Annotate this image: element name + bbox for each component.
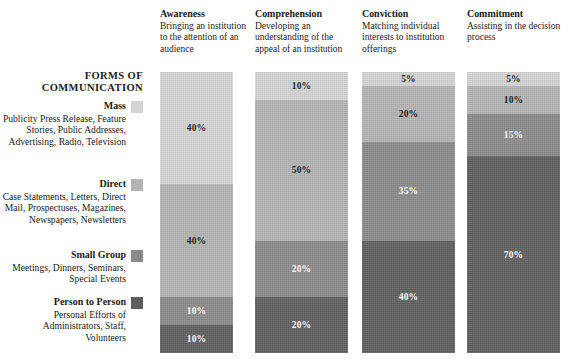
bar-segment-awareness-small-group[interactable]: 10%	[160, 297, 233, 325]
legend-heading: FORMS OF COMMUNICATION	[0, 70, 143, 95]
bar-segment-value-label: 5%	[506, 74, 521, 84]
column-subtitle-awareness: Bringing an institution to the attention…	[160, 21, 254, 56]
legend-swatch-mass-icon	[131, 101, 143, 113]
legend-item-person-to-person-label: Person to Person	[54, 296, 126, 307]
bar-segment-value-label: 10%	[504, 95, 524, 105]
legend-item-person-to-person-title: Person to Person	[0, 296, 143, 309]
legend-item-direct[interactable]: Direct Case Statements, Letters, Direct …	[0, 178, 143, 225]
legend-item-person-to-person[interactable]: Person to Person Personal Efforts of Adm…	[0, 296, 143, 343]
column-header-awareness: Awareness Bringing an institution to the…	[160, 8, 254, 55]
bar-segment-conviction-mass[interactable]: 5%	[362, 72, 455, 86]
bar-column-conviction: 5%20%35%40%	[362, 72, 455, 353]
bar-column-awareness: 40%40%10%10%	[160, 72, 233, 353]
bar-segment-value-label: 10%	[292, 81, 312, 91]
legend-item-mass-label: Mass	[104, 100, 126, 111]
bar-segment-awareness-person-to-person[interactable]: 10%	[160, 325, 233, 353]
bar-segment-comprehension-mass[interactable]: 10%	[255, 72, 348, 100]
bar-segment-commitment-person-to-person[interactable]: 70%	[467, 156, 560, 353]
column-header-comprehension: Comprehension Developing an understandin…	[255, 8, 355, 55]
column-subtitle-comprehension: Developing an understanding of the appea…	[255, 21, 355, 56]
bar-segment-awareness-mass[interactable]: 40%	[160, 72, 233, 184]
bar-segment-value-label: 20%	[399, 109, 419, 119]
bar-segment-conviction-direct[interactable]: 20%	[362, 86, 455, 142]
legend-item-person-to-person-description: Personal Efforts of Administrators, Staf…	[0, 309, 143, 344]
column-header-conviction: Conviction Matching individual interests…	[362, 8, 462, 55]
bar-segment-value-label: 20%	[292, 264, 312, 274]
bar-segment-value-label: 70%	[504, 250, 524, 260]
bar-segment-value-label: 50%	[292, 165, 312, 175]
bar-segment-conviction-small-group[interactable]: 35%	[362, 142, 455, 240]
bar-segment-comprehension-direct[interactable]: 50%	[255, 100, 348, 241]
column-header-commitment: Commitment Assisting in the decision pro…	[467, 8, 562, 44]
legend-item-mass[interactable]: Mass Publicity Press Release, Feature St…	[0, 100, 143, 147]
bar-segment-value-label: 40%	[187, 236, 207, 246]
legend-item-direct-description: Case Statements, Letters, Direct Mail, P…	[0, 191, 143, 226]
column-title-awareness: Awareness	[160, 8, 254, 20]
bar-segment-value-label: 40%	[399, 292, 419, 302]
legend-item-mass-description: Publicity Press Release, Feature Stories…	[0, 113, 143, 148]
legend-swatch-small-group-icon	[131, 250, 143, 262]
bar-segment-value-label: 40%	[187, 123, 207, 133]
legend-swatch-person-to-person-icon	[131, 297, 143, 309]
bar-segment-conviction-person-to-person[interactable]: 40%	[362, 241, 455, 353]
bar-segment-value-label: 20%	[292, 320, 312, 330]
legend-heading-line-2: COMMUNICATION	[0, 82, 143, 94]
bar-segment-comprehension-small-group[interactable]: 20%	[255, 241, 348, 297]
bar-segment-value-label: 5%	[401, 74, 416, 84]
bar-segment-commitment-small-group[interactable]: 15%	[467, 114, 560, 156]
legend-swatch-direct-icon	[131, 179, 143, 191]
legend-item-direct-title: Direct	[0, 178, 143, 191]
bar-segment-value-label: 10%	[187, 306, 207, 316]
column-title-comprehension: Comprehension	[255, 8, 355, 20]
legend-item-small-group-title: Small Group	[0, 249, 143, 262]
bar-column-commitment: 5%10%15%70%	[467, 72, 560, 353]
legend-item-direct-label: Direct	[100, 178, 126, 189]
legend-item-small-group[interactable]: Small Group Meetings, Dinners, Seminars,…	[0, 249, 143, 285]
legend-heading-line-1: FORMS OF	[0, 70, 143, 82]
bar-segment-awareness-direct[interactable]: 40%	[160, 184, 233, 296]
column-subtitle-conviction: Matching individual interests to institu…	[362, 21, 462, 56]
column-title-conviction: Conviction	[362, 8, 462, 20]
bar-column-comprehension: 10%50%20%20%	[255, 72, 348, 353]
bar-segment-commitment-mass[interactable]: 5%	[467, 72, 560, 86]
bar-segment-value-label: 10%	[187, 334, 207, 344]
legend-item-small-group-description: Meetings, Dinners, Seminars, Special Eve…	[0, 262, 143, 285]
legend-panel: FORMS OF COMMUNICATION Mass Publicity Pr…	[0, 0, 155, 359]
column-title-commitment: Commitment	[467, 8, 562, 20]
bar-segment-value-label: 35%	[399, 186, 419, 196]
bar-segment-value-label: 15%	[504, 130, 524, 140]
legend-item-small-group-label: Small Group	[71, 249, 126, 260]
bar-segment-comprehension-person-to-person[interactable]: 20%	[255, 297, 348, 353]
column-subtitle-commitment: Assisting in the decision process	[467, 21, 562, 44]
bar-segment-commitment-direct[interactable]: 10%	[467, 86, 560, 114]
stacked-bar-chart: FORMS OF COMMUNICATION Mass Publicity Pr…	[0, 0, 568, 359]
legend-item-mass-title: Mass	[0, 100, 143, 113]
